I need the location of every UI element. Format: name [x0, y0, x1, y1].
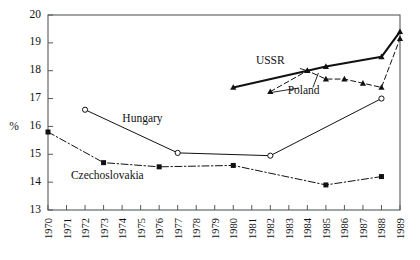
x-tick-label: 1983 — [284, 218, 295, 239]
y-tick-label: 16 — [30, 119, 42, 131]
y-axis-title: % — [9, 120, 19, 132]
data-point-poland — [267, 88, 273, 94]
series-line-hungary — [85, 99, 381, 156]
x-tick-label: 1981 — [247, 218, 258, 239]
x-tick-label: 1972 — [80, 218, 91, 239]
y-tick-label: 19 — [30, 35, 42, 47]
data-point-hungary — [175, 150, 180, 155]
x-tick-label: 1974 — [117, 217, 128, 239]
x-tick-label: 1977 — [173, 218, 184, 239]
data-point-poland — [341, 76, 347, 82]
y-tick-label: 15 — [30, 147, 42, 159]
economic-indicator-line-chart: 1314151617181920 19701971197219731974197… — [0, 0, 420, 260]
x-tick-label: 1973 — [99, 218, 110, 239]
x-tick-label: 1979 — [210, 218, 221, 239]
data-point-czechoslovakia — [46, 130, 51, 135]
y-axis-ticks: 1314151617181920 — [30, 8, 54, 215]
chart-canvas: 1314151617181920 19701971197219731974197… — [0, 0, 420, 260]
x-tick-label: 1971 — [62, 218, 73, 239]
data-point-czechoslovakia — [231, 163, 236, 168]
y-tick-label: 14 — [30, 175, 42, 187]
x-tick-label: 1978 — [191, 218, 202, 239]
series-label-hungary: Hungary — [122, 112, 162, 125]
series-label-czechoslovakia: Czechoslovakia — [71, 169, 144, 181]
x-tick-label: 1975 — [136, 218, 147, 239]
series-label-ussr: USSR — [256, 54, 285, 66]
data-point-czechoslovakia — [379, 174, 384, 179]
x-tick-label: 1980 — [228, 218, 239, 239]
y-tick-label: 18 — [30, 63, 42, 75]
x-tick-label: 1989 — [395, 218, 406, 239]
series-lines-group — [48, 32, 400, 185]
x-tick-label: 1987 — [358, 218, 369, 239]
x-tick-label: 1982 — [265, 218, 276, 239]
y-tick-label: 17 — [30, 91, 42, 103]
y-tick-label: 20 — [30, 8, 42, 20]
data-point-ussr — [397, 29, 403, 35]
x-tick-label: 1970 — [43, 218, 54, 239]
data-point-czechoslovakia — [157, 164, 162, 169]
x-tick-label: 1986 — [339, 218, 350, 239]
x-tick-label: 1988 — [376, 218, 387, 239]
data-point-czechoslovakia — [101, 160, 106, 165]
y-tick-label: 13 — [30, 203, 42, 215]
data-point-hungary — [82, 107, 87, 112]
series-label-poland: Poland — [288, 84, 320, 96]
data-point-hungary — [268, 153, 273, 158]
x-tick-label: 1976 — [154, 218, 165, 239]
series-markers-group — [46, 29, 404, 188]
data-point-hungary — [379, 96, 384, 101]
series-annotations-group: USSRPolandHungaryCzechoslovakia — [71, 54, 320, 182]
data-point-czechoslovakia — [323, 182, 328, 187]
x-tick-label: 1985 — [321, 218, 332, 239]
x-tick-label: 1984 — [302, 217, 313, 239]
